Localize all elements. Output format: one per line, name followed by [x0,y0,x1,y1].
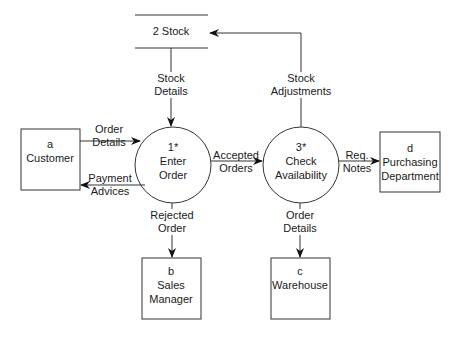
process-3-label: 3* Check Availability [275,140,327,182]
flow-label-line: Accepted [213,149,259,162]
flow-label-line: Details [154,85,188,98]
flow-label-line: Order [92,123,126,136]
flow-label-line: Payment [88,172,131,185]
entity-d-name-2: Department [381,169,438,183]
process-3-name-2: Availability [275,168,327,182]
entity-c-label: c Warehouse [272,264,328,292]
flow-label-payment-advices: Payment Advices [88,172,131,198]
entity-a-name: Customer [26,151,74,165]
flow-label-order-details-in: Order Details [92,123,126,149]
flow-label-rejected-order: Rejected Order [150,209,193,235]
entity-b-name-2: Manager [149,292,192,306]
flow-label-line: Details [92,136,126,149]
entity-c-name: Warehouse [272,278,328,292]
entity-b-id: b [149,264,192,278]
entity-a-label: a Customer [26,137,74,165]
flow-label-req-notes: Req. Notes [343,149,372,175]
flow-label-line: Order [150,222,193,235]
entity-a-id: a [26,137,74,151]
entity-d-id: d [381,141,438,155]
entity-c-id: c [272,264,328,278]
flow-label-accepted-orders: Accepted Orders [213,149,259,175]
flow-label-line: Req. [343,149,372,162]
flow-label-line: Stock [271,72,332,85]
process-3-name-1: Check [275,154,327,168]
entity-b-name-1: Sales [149,278,192,292]
process-1-name-2: Order [159,168,187,182]
entity-d-label: d Purchasing Department [381,141,438,183]
process-3-id: 3* [275,140,327,154]
flow-label-line: Notes [343,162,372,175]
process-1-id: 1* [159,140,187,154]
flow-label-stock-adjustments: Stock Adjustments [271,72,332,98]
entity-b-label: b Sales Manager [149,264,192,306]
process-1-name-1: Enter [159,154,187,168]
process-1-label: 1* Enter Order [159,140,187,182]
flow-label-line: Rejected [150,209,193,222]
flow-label-line: Orders [213,162,259,175]
flow-label-line: Advices [88,185,131,198]
flow-label-line: Details [283,222,317,235]
entity-d-name-1: Purchasing [381,155,438,169]
flow-label-line: Stock [154,72,188,85]
flow-label-stock-details: Stock Details [154,72,188,98]
flow-label-line: Adjustments [271,85,332,98]
flow-label-order-details-out: Order Details [283,209,317,235]
data-store-label: 2 Stock [153,24,190,38]
flow-label-line: Order [283,209,317,222]
